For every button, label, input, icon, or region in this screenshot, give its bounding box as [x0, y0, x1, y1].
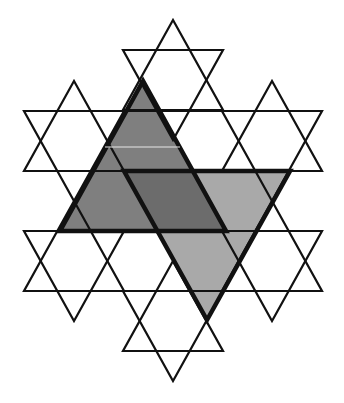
- star-middle-right-up-triangle: [222, 81, 322, 171]
- diagram-canvas: Hexagram lattice with two overlapping sh…: [0, 0, 344, 403]
- star-lower-left-down-triangle: [24, 231, 124, 321]
- hexagram-lattice-diagram: [0, 0, 344, 403]
